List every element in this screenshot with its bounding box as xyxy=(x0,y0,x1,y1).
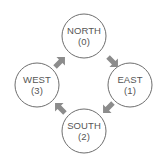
node-east-name: EAST xyxy=(108,74,152,85)
node-north-index: (0) xyxy=(62,36,106,47)
node-west-index: (3) xyxy=(15,85,59,96)
arrow-west-to-north-icon xyxy=(51,53,69,71)
node-east-label: EAST (1) xyxy=(108,74,152,96)
node-north-label: NORTH (0) xyxy=(62,25,106,47)
node-south-label: SOUTH (2) xyxy=(62,120,106,142)
arrow-east-to-south-icon xyxy=(99,99,117,117)
node-east-index: (1) xyxy=(108,85,152,96)
node-south-index: (2) xyxy=(62,131,106,142)
node-north-name: NORTH xyxy=(62,25,106,36)
node-west-name: WEST xyxy=(15,74,59,85)
node-south-name: SOUTH xyxy=(62,120,106,131)
arrow-south-to-west-icon xyxy=(51,99,69,117)
node-west-label: WEST (3) xyxy=(15,74,59,96)
